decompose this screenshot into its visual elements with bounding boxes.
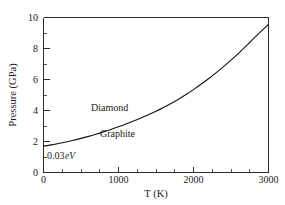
y-tick-label-4: 4 xyxy=(33,105,38,116)
annotation-graphite: Graphite xyxy=(100,128,136,139)
y-tick-label-2: 2 xyxy=(33,136,38,147)
x-axis-tick-labels: 0 1000 2000 3000 xyxy=(41,174,279,185)
x-tick-label-1000: 1000 xyxy=(109,174,129,185)
x-tick-label-0: 0 xyxy=(41,174,46,185)
annotation-diamond: Diamond xyxy=(91,102,128,113)
y-axis-minor-ticks xyxy=(44,33,48,157)
x-tick-label-3000: 3000 xyxy=(259,174,279,185)
y-tick-label-0: 0 xyxy=(33,167,38,178)
x-tick-label-2000: 2000 xyxy=(184,174,204,185)
annotation-energy-value: 0.03 xyxy=(47,150,65,161)
y-tick-label-6: 6 xyxy=(33,74,38,85)
axes-frame xyxy=(44,18,269,173)
y-axis-tick-labels: 0 2 4 6 8 10 xyxy=(28,12,38,178)
chart-canvas: 0 2 4 6 8 10 0 1000 xyxy=(0,0,285,205)
annotation-energy-unit: eV xyxy=(65,151,76,161)
plot-border xyxy=(44,18,269,173)
x-axis-title: T (K) xyxy=(144,188,168,200)
phase-diagram-figure: 0 2 4 6 8 10 0 1000 xyxy=(0,0,285,205)
y-tick-label-10: 10 xyxy=(28,12,38,23)
y-tick-label-8: 8 xyxy=(33,43,38,54)
x-axis-minor-ticks xyxy=(62,169,250,173)
y-axis-title: Pressure (GPa) xyxy=(7,63,19,127)
phase-boundary-curve xyxy=(44,24,269,146)
